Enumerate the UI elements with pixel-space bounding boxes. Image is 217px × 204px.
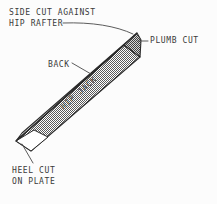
label-side-cut-line2: HIP RAFTER <box>9 18 96 29</box>
label-heel-cut-line1: HEEL CUT <box>12 165 55 176</box>
diagram-canvas: SIDE CUT AGAINST HIP RAFTER PLUMB CUT BA… <box>0 0 217 204</box>
label-heel-cut-line2: ON PLATE <box>12 176 55 187</box>
label-plumb-cut: PLUMB CUT <box>150 35 199 46</box>
label-side-cut-against-hip-rafter: SIDE CUT AGAINST HIP RAFTER <box>9 7 96 29</box>
label-heel-cut-on-plate: HEEL CUT ON PLATE <box>12 165 55 187</box>
label-back: BACK <box>48 59 70 70</box>
back-leader-icon <box>72 63 91 74</box>
label-side-cut-line1: SIDE CUT AGAINST <box>9 7 96 18</box>
